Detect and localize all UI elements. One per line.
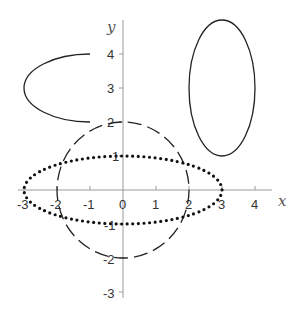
y-tick-label: 3 [107,81,114,96]
half-ellipse-top-left [24,54,90,122]
x-ticks [24,186,255,190]
y-tick-label: -2 [103,252,115,267]
y-tick-label: -1 [104,218,116,233]
y-axis-label: y [106,18,116,36]
ellipse-top-right [189,20,255,156]
plot-area: -3 -2 -1 0 1 2 3 4 4 3 2 1 -1 -2 -3 x y [0,0,304,318]
x-tick-label: 1 [152,197,159,212]
x-tick-label: 4 [251,197,258,212]
x-tick-label: 0 [119,197,126,212]
x-tick-label: -1 [83,197,95,212]
y-ticks [119,54,123,292]
x-axis-label: x [278,192,287,210]
y-tick-label: 4 [107,47,114,62]
y-tick-label: -3 [103,286,115,301]
